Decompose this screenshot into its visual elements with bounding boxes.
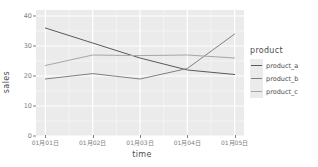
y-tick-label: 10 xyxy=(12,102,32,110)
x-tick-label: 01月05日 xyxy=(207,138,263,147)
x-tick-mark xyxy=(235,135,236,138)
legend-item-product_b[interactable]: product_b xyxy=(250,72,318,85)
x-tick-mark xyxy=(140,135,141,138)
x-axis-title: time xyxy=(44,150,240,159)
y-axis-title: sales xyxy=(2,52,11,112)
legend-key-icon xyxy=(250,85,263,98)
legend-item-label: product_b xyxy=(266,75,298,83)
line-chart: sales 010203040 01月01日01月02日01月03日01月04日… xyxy=(0,0,318,167)
legend-item-label: product_a xyxy=(266,62,298,70)
legend-items: product_aproduct_bproduct_c xyxy=(250,59,318,98)
plot-panel xyxy=(36,10,244,136)
y-tick-label: 40 xyxy=(12,12,32,20)
legend-item-label: product_c xyxy=(266,88,298,96)
x-tick-mark xyxy=(93,135,94,138)
legend-title: product xyxy=(250,46,318,55)
legend-item-product_a[interactable]: product_a xyxy=(250,59,318,72)
y-tick-label: 30 xyxy=(12,42,32,50)
y-tick-label: 20 xyxy=(12,72,32,80)
plot-area xyxy=(36,10,244,136)
legend-key-icon xyxy=(250,72,263,85)
legend-item-product_c[interactable]: product_c xyxy=(250,85,318,98)
x-tick-mark xyxy=(187,135,188,138)
x-tick-mark xyxy=(45,135,46,138)
legend: product product_aproduct_bproduct_c xyxy=(250,46,318,98)
legend-key-icon xyxy=(250,59,263,72)
